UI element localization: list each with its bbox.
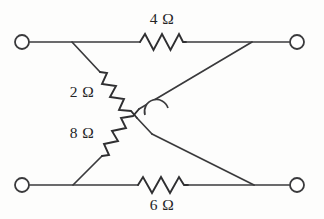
circuit-diagram-root: 4 Ω 2 Ω 8 Ω 6 Ω bbox=[0, 0, 324, 219]
top-right-terminal[interactable] bbox=[290, 35, 304, 49]
bottom-right-terminal[interactable] bbox=[290, 178, 304, 192]
top-left-terminal[interactable] bbox=[15, 35, 29, 49]
resistor-2ohm-label: 2 Ω bbox=[70, 83, 94, 100]
resistor-8ohm-label: 8 Ω bbox=[70, 124, 94, 141]
resistor-4ohm-label: 4 Ω bbox=[150, 10, 174, 27]
bottom-left-terminal[interactable] bbox=[15, 178, 29, 192]
circuit-schematic-canvas: 4 Ω 2 Ω 8 Ω 6 Ω bbox=[0, 0, 324, 219]
resistor-6ohm-label: 6 Ω bbox=[150, 196, 174, 213]
